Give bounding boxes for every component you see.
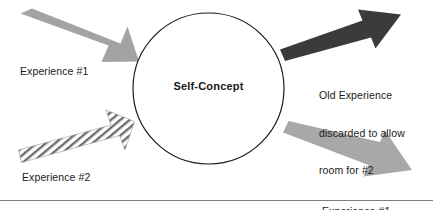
diagram-canvas: Self-Concept Experience #1 Experience #2…	[0, 0, 433, 210]
label-old-experience-line-1: Old Experience	[319, 89, 405, 102]
label-old-experience-line-2: discarded to allow	[319, 127, 405, 140]
arrow-outgoing-old-experience	[280, 10, 401, 62]
arrow-incoming-experience-1	[21, 9, 140, 63]
label-experience-2: Experience #2	[22, 171, 90, 184]
arrow-incoming-experience-2	[19, 110, 135, 163]
label-experience-1: Experience #1	[20, 65, 88, 78]
self-concept-label: Self-Concept	[133, 80, 284, 92]
label-experience-1-rejected-line-1: Experience #1	[322, 205, 390, 210]
label-old-experience-line-3: room for #2	[319, 164, 405, 177]
label-experience-1-rejected: Experience #1 rejected	[322, 180, 390, 210]
